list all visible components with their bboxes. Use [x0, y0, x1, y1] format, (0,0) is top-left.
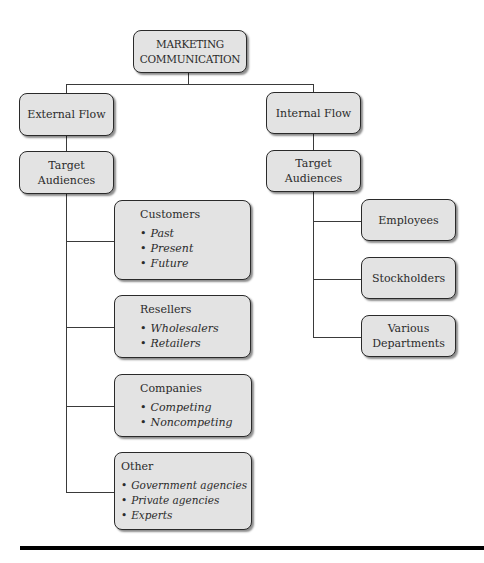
connector-root-branch [66, 84, 314, 85]
node-title: Resellers [140, 302, 250, 317]
list-item: •Noncompeting [140, 415, 251, 430]
node-resellers: Resellers •Wholesalers •Retailers [114, 295, 251, 358]
node-label: Stockholders [372, 271, 445, 286]
node-marketing-communication: MARKETING COMMUNICATION [133, 30, 247, 73]
connector-external-down [66, 84, 67, 93]
node-title: Other [121, 459, 251, 474]
node-label: COMMUNICATION [140, 52, 240, 67]
connector-internal-target [313, 134, 314, 150]
node-label: MARKETING [140, 37, 240, 52]
list-item: •Present [140, 241, 250, 256]
connector-internal-down [313, 84, 314, 92]
connector-companies [66, 406, 114, 407]
list-item: •Experts [121, 508, 251, 523]
connector-external-target [66, 136, 67, 151]
node-title: Customers [140, 207, 250, 222]
connector-internal-trunk [313, 192, 314, 337]
connector-customers [66, 241, 114, 242]
node-label: Target [38, 158, 96, 173]
list-item: •Private agencies [121, 493, 251, 508]
node-internal-flow: Internal Flow [266, 92, 361, 134]
node-internal-target-audiences: Target Audiences [266, 150, 361, 192]
node-stockholders: Stockholders [361, 257, 456, 299]
connector-external-trunk [66, 194, 67, 492]
list-item: •Government agencies [121, 478, 251, 493]
connector-resellers [66, 327, 114, 328]
connector-departments [313, 337, 361, 338]
node-external-target-audiences: Target Audiences [19, 151, 114, 194]
node-external-flow: External Flow [19, 93, 114, 136]
node-label: Departments [372, 336, 445, 351]
node-label: External Flow [27, 107, 105, 122]
list-item: •Past [140, 226, 250, 241]
node-label: Employees [378, 213, 439, 228]
node-title: Companies [140, 381, 251, 396]
list-item: •Future [140, 256, 250, 271]
node-label: Target [285, 156, 343, 171]
node-companies: Companies •Competing •Noncompeting [114, 374, 252, 437]
connector-stockholders [313, 279, 361, 280]
node-various-departments: Various Departments [361, 315, 456, 357]
node-label: Various [372, 321, 445, 336]
list-item: •Competing [140, 400, 251, 415]
node-label: Internal Flow [276, 106, 351, 121]
connector-other [66, 492, 114, 493]
connector-root-down [188, 73, 189, 84]
list-item: •Wholesalers [140, 321, 250, 336]
node-other: Other •Government agencies •Private agen… [114, 452, 252, 530]
node-employees: Employees [361, 199, 456, 241]
list-item: •Retailers [140, 336, 250, 351]
connector-employees [313, 221, 361, 222]
node-label: Audiences [285, 171, 343, 186]
node-customers: Customers •Past •Present •Future [114, 200, 251, 280]
node-label: Audiences [38, 173, 96, 188]
bottom-rule [20, 546, 484, 550]
